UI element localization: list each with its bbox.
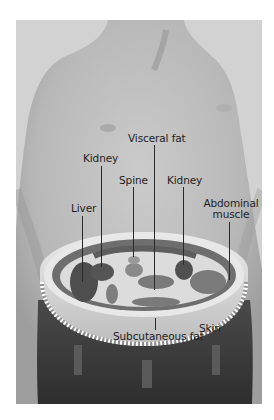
illustration-frame: Visceral fat Kidney Spine Kidney Liver A… [16, 20, 262, 404]
leader-subcutaneous-fat [155, 318, 156, 330]
label-kidney-left: Kidney [83, 153, 118, 164]
leader-kidney-right [183, 187, 184, 265]
kidney-right-organ [175, 260, 193, 280]
leader-spine [133, 187, 134, 257]
spine-organ [125, 263, 143, 277]
leader-abdominal-muscle [229, 222, 230, 280]
kidney-left-organ [90, 263, 114, 281]
label-subcutaneous-fat: Subcutaneous fat [113, 331, 204, 342]
leader-kidney-left [101, 166, 102, 267]
label-visceral-fat: Visceral fat [128, 133, 186, 144]
label-liver: Liver [71, 203, 96, 214]
label-abdominal-muscle: Abdominal muscle [202, 198, 260, 220]
leader-visceral-fat [154, 145, 155, 290]
label-kidney-right: Kidney [167, 175, 202, 186]
leader-liver [82, 216, 83, 282]
label-spine: Spine [119, 175, 148, 186]
label-skin: Skin [199, 323, 221, 334]
